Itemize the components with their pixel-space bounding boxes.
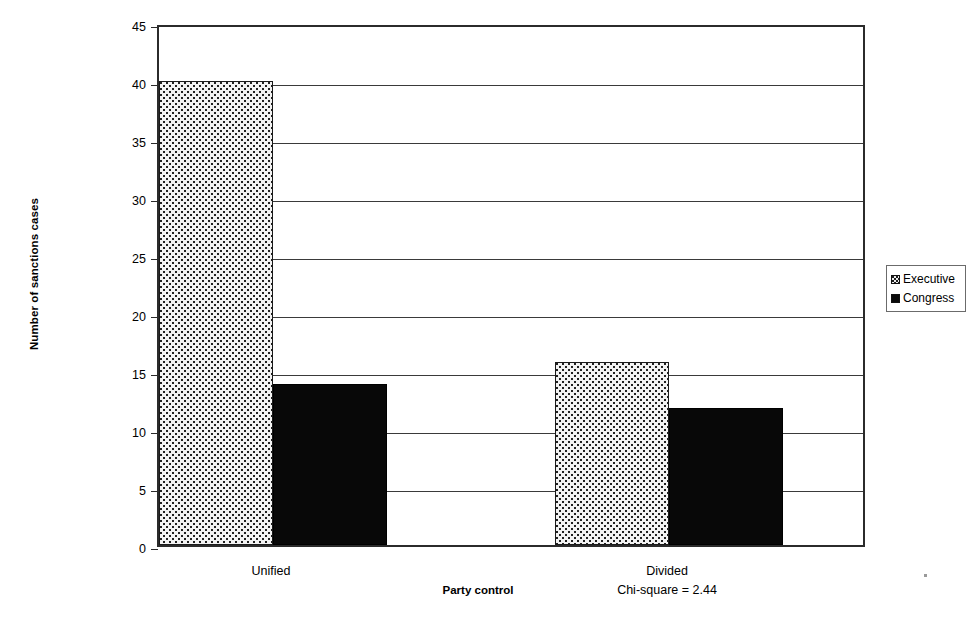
bar-unified-congress xyxy=(273,384,387,545)
y-tick-label: 5 xyxy=(139,484,146,498)
legend-swatch-congress-icon xyxy=(891,294,900,303)
y-tick-label: 35 xyxy=(132,136,146,150)
legend-label-executive: Executive xyxy=(903,271,955,287)
y-tick-mark xyxy=(151,259,158,260)
bar-chart: Number of sanctions cases 05101520253035… xyxy=(0,0,972,619)
legend-item-executive: Executive xyxy=(891,271,962,287)
y-tick-label: 10 xyxy=(132,426,146,440)
y-tick-mark xyxy=(151,85,158,86)
bar-divided-congress xyxy=(669,408,783,545)
y-tick-mark xyxy=(151,491,158,492)
x-axis-title-text: Party control xyxy=(443,584,514,596)
category-label-text: Divided xyxy=(646,564,688,578)
plot-area: 051015202530354045 xyxy=(157,25,865,547)
y-tick-mark xyxy=(151,317,158,318)
y-tick-mark xyxy=(151,143,158,144)
legend-swatch-executive-icon xyxy=(891,275,900,284)
y-tick-label: 40 xyxy=(132,78,146,92)
y-axis-title: Number of sanctions cases xyxy=(28,144,40,404)
y-tick-label: 45 xyxy=(132,20,146,34)
y-tick-mark xyxy=(151,27,158,28)
y-tick-mark xyxy=(151,433,158,434)
y-tick-label: 25 xyxy=(132,252,146,266)
y-tick-mark xyxy=(151,375,158,376)
legend: Executive Congress xyxy=(886,265,966,312)
category-label-text: Unified xyxy=(252,564,291,578)
y-tick-label: 15 xyxy=(132,368,146,382)
y-tick-label: 20 xyxy=(132,310,146,324)
x-category-label-unified: Unified xyxy=(252,564,291,578)
x-axis-title: Party control xyxy=(0,584,972,596)
legend-item-congress: Congress xyxy=(891,290,962,306)
y-tick-label: 30 xyxy=(132,194,146,208)
y-tick-mark xyxy=(151,549,158,550)
bar-unified-executive xyxy=(159,81,273,545)
legend-label-congress: Congress xyxy=(903,290,954,306)
y-tick-label: 0 xyxy=(139,542,146,556)
bar-divided-executive xyxy=(555,362,669,545)
scan-artifact-speck xyxy=(924,574,927,577)
y-tick-mark xyxy=(151,201,158,202)
